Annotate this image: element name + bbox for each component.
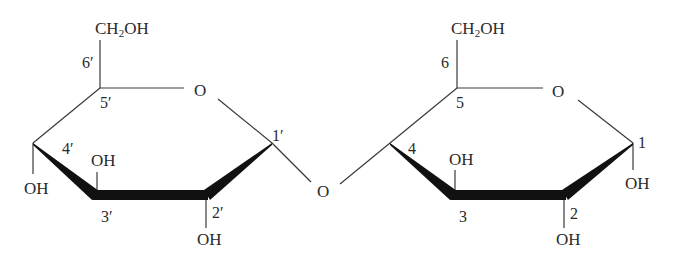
- left-c2-label: 2′: [212, 204, 224, 221]
- right-c3-oh: OH: [449, 150, 474, 169]
- left-c5-c4-bond: [33, 88, 100, 143]
- right-c5-label: 5: [456, 94, 464, 111]
- left-c4-label: 4′: [62, 140, 74, 157]
- left-c3-c2-bar: [92, 190, 208, 200]
- right-c2-oh: OH: [556, 230, 581, 249]
- right-c4-label: 4: [408, 140, 416, 157]
- right-c1-label: 1: [638, 134, 646, 151]
- right-c6-label: 6: [441, 54, 449, 71]
- left-c4-oh: OH: [24, 179, 49, 198]
- left-c3-oh: OH: [91, 151, 116, 170]
- right-ch2oh-label: CH2OH: [451, 19, 505, 39]
- left-o-c1-bond: [218, 99, 272, 143]
- left-c3-label: 3′: [101, 208, 113, 225]
- left-pyranose-ring: CH2OH 6′ 5′ O 1′ 4′ OH OH 3′ 2′ OH: [24, 19, 311, 249]
- left-c5-label: 5′: [100, 94, 112, 111]
- left-c2-c1-wedge: [204, 143, 272, 200]
- right-ring-oxygen: O: [552, 82, 564, 101]
- right-c4-c3-wedge: [390, 143, 457, 200]
- right-pyranose-ring: CH2OH 6 5 O 1 4 OH 3 2 OH OH: [390, 19, 650, 249]
- right-c5-c4-bond: [390, 88, 457, 143]
- left-c1-bridge-bond: [272, 143, 311, 182]
- left-ch2oh-label: CH2OH: [95, 19, 149, 39]
- right-c2-c1-wedge: [562, 143, 633, 200]
- right-c1-oh: OH: [625, 174, 650, 193]
- bridge-c4-bond: [340, 143, 390, 184]
- right-c3-c2-bar: [450, 190, 566, 200]
- right-c2-label: 2: [570, 205, 578, 222]
- left-c1-label: 1′: [272, 127, 284, 144]
- right-o-c1-bond: [578, 100, 633, 143]
- left-c6-label: 6′: [82, 54, 94, 71]
- left-c2-oh: OH: [197, 230, 222, 249]
- left-ring-oxygen: O: [194, 81, 206, 100]
- bridge-oxygen: O: [317, 182, 329, 201]
- right-c3-label: 3: [459, 208, 467, 225]
- disaccharide-structure-diagram: CH2OH 6′ 5′ O 1′ 4′ OH OH 3′ 2′ OH O CH2…: [0, 0, 673, 264]
- glycosidic-bridge: O: [317, 143, 390, 201]
